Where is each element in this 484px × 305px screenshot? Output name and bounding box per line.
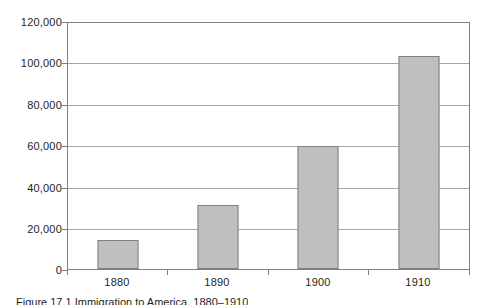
bar-slot-1880 bbox=[68, 23, 168, 269]
y-axis-label: 40,000 bbox=[0, 182, 62, 194]
y-axis-label: 0 bbox=[0, 264, 62, 276]
x-axis-label-1900: 1900 bbox=[305, 276, 330, 288]
bar-1880[interactable] bbox=[98, 240, 139, 269]
figure-caption: Figure 17.1 Immigration to America, 1880… bbox=[16, 296, 248, 305]
bar-slot-1890 bbox=[168, 23, 268, 269]
bar-slot-1900 bbox=[268, 23, 368, 269]
bar-chart-figure: 120,000 100,000 80,000 60,000 40,000 20,… bbox=[0, 0, 484, 305]
x-axis: 1880 1890 1900 1910 bbox=[67, 270, 470, 290]
bar-series bbox=[68, 23, 469, 269]
x-axis-tick bbox=[167, 270, 168, 275]
bar-1890[interactable] bbox=[198, 205, 239, 269]
y-axis: 120,000 100,000 80,000 60,000 40,000 20,… bbox=[0, 0, 62, 305]
bar-1900[interactable] bbox=[298, 146, 339, 269]
x-axis-tick bbox=[469, 270, 470, 275]
y-axis-label: 60,000 bbox=[0, 140, 62, 152]
y-axis-label: 100,000 bbox=[0, 57, 62, 69]
y-axis-label: 20,000 bbox=[0, 223, 62, 235]
bar-1910[interactable] bbox=[398, 56, 439, 269]
x-axis-tick bbox=[67, 270, 68, 275]
bar-slot-1910 bbox=[368, 23, 469, 269]
x-axis-label-1880: 1880 bbox=[104, 276, 129, 288]
y-axis-label: 80,000 bbox=[0, 99, 62, 111]
y-axis-label: 120,000 bbox=[0, 16, 62, 28]
x-axis-label-1890: 1890 bbox=[204, 276, 229, 288]
x-axis-label-1910: 1910 bbox=[405, 276, 430, 288]
x-axis-tick bbox=[268, 270, 269, 275]
x-axis-tick bbox=[368, 270, 369, 275]
